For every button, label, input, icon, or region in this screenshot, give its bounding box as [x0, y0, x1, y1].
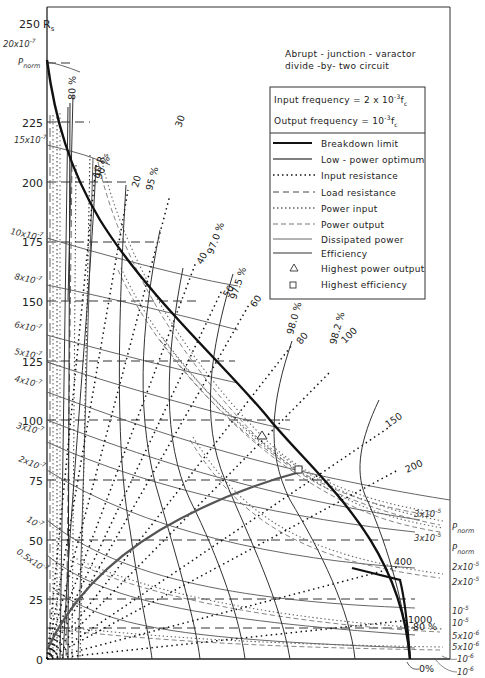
svg-text:Input resistance: Input resistance [321, 171, 398, 181]
svg-text:200: 200 [403, 457, 424, 475]
svg-text:20x10-7: 20x10-7 [3, 37, 36, 49]
svg-text:0.5x10-7: 0.5x10-7 [15, 545, 51, 575]
svg-text:10-6: 10-6 [457, 652, 474, 664]
svg-text:2x10-5: 2x10-5 [452, 575, 479, 587]
svg-text:5x10-6: 5x10-6 [452, 640, 479, 652]
svg-text:Pnorm: Pnorm [452, 543, 474, 556]
right-pnorm-labels: 3x10-5 Pnorm 3x10-5 Pnorm 2x10-5 2x10-5 … [414, 507, 479, 677]
svg-text:30: 30 [173, 114, 187, 129]
svg-text:10-6: 10-6 [457, 665, 474, 677]
svg-text:80 %: 80 % [413, 621, 437, 632]
svg-text:0%: 0% [419, 663, 434, 674]
svg-text:95 %: 95 % [143, 165, 160, 191]
svg-text:Power input: Power input [321, 204, 378, 214]
ytick-label: 250 [19, 18, 40, 31]
svg-text:97.0 %: 97.0 % [205, 221, 227, 256]
svg-text:400: 400 [394, 556, 412, 567]
legend: Input frequency = 2 x 10-3fc Output freq… [270, 87, 425, 299]
ytick-label: 75 [29, 475, 43, 488]
output-frequency-label: Output frequency = 10-3fc [274, 114, 398, 128]
input-frequency-label: Input frequency = 2 x 10-3fc [274, 93, 408, 107]
svg-text:Breakdown limit: Breakdown limit [321, 139, 399, 149]
svg-text:60: 60 [248, 293, 264, 309]
svg-text:20: 20 [129, 174, 143, 189]
svg-text:10-7: 10-7 [25, 512, 46, 531]
ytick-label: 150 [22, 296, 43, 309]
highest-efficiency-marker [295, 466, 302, 473]
svg-text:3x10-5: 3x10-5 [414, 507, 441, 519]
svg-text:2x10-7: 2x10-7 [17, 452, 47, 473]
svg-text:15x10-7: 15x10-7 [14, 133, 47, 145]
svg-text:divide -by- two circuit: divide -by- two circuit [285, 61, 389, 71]
svg-text:Efficiency: Efficiency [321, 249, 368, 259]
y-unit-label: Rs [43, 18, 55, 33]
ytick-label: 225 [22, 117, 43, 130]
ytick-label: 50 [29, 535, 43, 548]
svg-text:Load resistance: Load resistance [321, 188, 396, 198]
svg-text:80: 80 [294, 330, 310, 346]
left-vertical-cluster [50, 103, 93, 659]
svg-text:Highest efficiency: Highest efficiency [321, 280, 407, 290]
svg-text:Dissipated power: Dissipated power [321, 235, 404, 245]
ytick-label: 25 [29, 594, 43, 607]
svg-text:6x10-7: 6x10-7 [14, 317, 43, 334]
chart: 250 Rs 225 200 175 150 125 100 75 50 25 … [0, 0, 485, 678]
ytick-label: 200 [22, 177, 43, 190]
svg-text:3x10-5: 3x10-5 [414, 531, 441, 543]
svg-text:Pnorm: Pnorm [18, 57, 40, 70]
svg-text:Low - power optimum: Low - power optimum [321, 155, 425, 165]
low-power-optimum-curve [47, 472, 300, 650]
legend-square-icon [290, 282, 296, 288]
svg-text:Power output: Power output [321, 220, 385, 230]
svg-text:10-5: 10-5 [452, 604, 469, 616]
chart-title: Abrupt - junction - varactor divide -by-… [285, 49, 416, 71]
svg-text:4x10-7: 4x10-7 [13, 371, 43, 390]
svg-text:2x10-5: 2x10-5 [452, 560, 479, 572]
svg-text:Pnorm: Pnorm [452, 522, 474, 535]
svg-text:8x10-7: 8x10-7 [14, 269, 43, 286]
svg-text:80 %: 80 % [66, 76, 78, 101]
svg-text:10-5: 10-5 [452, 616, 469, 628]
svg-text:Abrupt - junction - varactor: Abrupt - junction - varactor [285, 49, 416, 59]
svg-text:150: 150 [383, 410, 404, 429]
svg-text:Highest power output: Highest power output [321, 264, 425, 274]
ytick-label: 0 [36, 654, 43, 667]
